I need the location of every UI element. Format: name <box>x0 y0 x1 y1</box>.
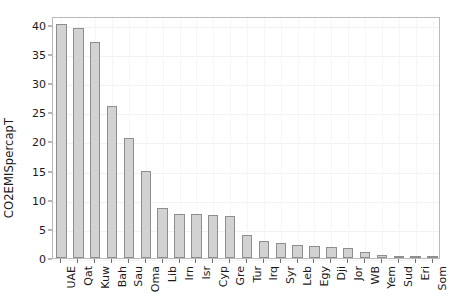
x-tick-label: Jor <box>352 266 365 281</box>
bar <box>242 235 252 258</box>
y-tick-label: 0 <box>39 253 46 266</box>
x-tick-mark <box>246 259 247 263</box>
x-tick-label: Egy <box>318 266 331 286</box>
x-axis-ticks: UAEQatKuwBahSauOmaLibIrnIsrCypGreTurIrqS… <box>52 259 440 304</box>
plot-area <box>52 17 440 259</box>
bar <box>360 252 370 258</box>
y-axis-ticks: 0510152025303540 <box>0 0 52 304</box>
x-tick-mark <box>212 259 213 263</box>
x-tick-label: Cyp <box>217 266 230 287</box>
x-tick-mark <box>398 259 399 263</box>
bar <box>292 245 302 258</box>
bar <box>259 241 269 258</box>
x-tick-mark <box>60 259 61 263</box>
x-tick-label: WB <box>369 266 382 284</box>
x-tick-mark <box>297 259 298 263</box>
x-tick-mark <box>347 259 348 263</box>
x-tick-label: Bah <box>116 266 129 287</box>
bar <box>410 256 420 258</box>
bar <box>174 214 184 258</box>
x-tick-label: Tur <box>251 266 264 283</box>
y-tick-label: 25 <box>32 107 46 120</box>
x-tick-label: Irn <box>183 266 196 281</box>
x-tick-label: Gre <box>234 266 247 286</box>
bar <box>326 247 336 258</box>
x-tick-label: Lib <box>166 266 179 282</box>
bar-chart: CO2EMISpercapT 0510152025303540 UAEQatKu… <box>0 0 453 304</box>
y-tick-label: 35 <box>32 48 46 61</box>
y-tick-label: 20 <box>32 136 46 149</box>
x-tick-mark <box>229 259 230 263</box>
x-tick-mark <box>313 259 314 263</box>
bar <box>208 215 218 258</box>
bar <box>309 246 319 258</box>
y-tick-label: 10 <box>32 194 46 207</box>
x-tick-mark <box>145 259 146 263</box>
bar <box>124 138 134 258</box>
bar <box>191 214 201 258</box>
x-tick-label: Qat <box>82 266 95 286</box>
x-tick-mark <box>179 259 180 263</box>
y-tick-label: 15 <box>32 165 46 178</box>
bar <box>276 243 286 258</box>
bar <box>343 248 353 258</box>
bar <box>225 216 235 258</box>
bars-layer <box>53 18 439 258</box>
x-tick-mark <box>381 259 382 263</box>
x-tick-mark <box>432 259 433 263</box>
x-tick-label: Isr <box>200 266 213 280</box>
bar <box>377 255 387 258</box>
bar <box>90 42 100 258</box>
x-tick-mark <box>364 259 365 263</box>
x-tick-label: Yem <box>385 266 398 289</box>
bar <box>394 256 404 258</box>
x-tick-mark <box>128 259 129 263</box>
y-tick-label: 5 <box>39 223 46 236</box>
y-tick-label: 40 <box>32 19 46 32</box>
x-tick-mark <box>263 259 264 263</box>
bar <box>107 106 117 258</box>
x-tick-mark <box>77 259 78 263</box>
x-tick-label: Oma <box>149 266 162 292</box>
x-tick-mark <box>280 259 281 263</box>
bar <box>141 171 151 258</box>
bar <box>157 208 167 258</box>
x-tick-label: Irq <box>267 266 280 281</box>
x-tick-label: Sau <box>132 266 145 287</box>
x-tick-label: Eri <box>419 266 432 281</box>
x-tick-mark <box>162 259 163 263</box>
x-tick-label: Dji <box>335 266 348 281</box>
y-tick-label: 30 <box>32 78 46 91</box>
x-tick-mark <box>195 259 196 263</box>
x-tick-label: Som <box>436 266 449 290</box>
x-tick-label: Kuw <box>99 266 112 289</box>
x-tick-label: Syr <box>284 266 297 284</box>
x-tick-mark <box>330 259 331 263</box>
x-tick-label: Sud <box>402 266 415 287</box>
x-tick-label: UAE <box>65 266 78 289</box>
bar <box>427 256 437 258</box>
bar <box>73 28 83 258</box>
bar <box>56 24 66 258</box>
x-tick-mark <box>415 259 416 263</box>
x-tick-mark <box>94 259 95 263</box>
x-tick-mark <box>111 259 112 263</box>
x-tick-label: Leb <box>301 266 314 286</box>
